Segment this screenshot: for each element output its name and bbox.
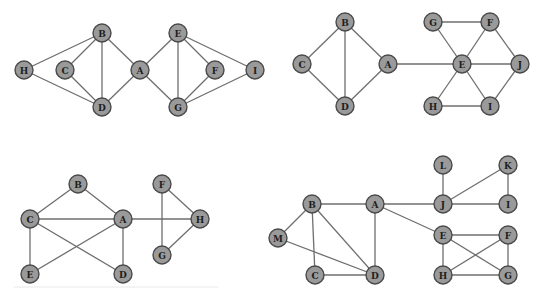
node-E: E — [169, 24, 187, 42]
node-D: D — [336, 97, 354, 115]
node-label: F — [159, 180, 166, 190]
edge-B-D — [312, 204, 375, 275]
graph-diagrams-canvas: HCBDAEGFIBCADGFEJHIBFCAHGEDLKBAJIMEFCDHG — [0, 0, 551, 306]
node-label: D — [119, 270, 127, 280]
node-label: M — [273, 234, 283, 244]
node-I: I — [481, 97, 499, 115]
node-label: D — [371, 271, 379, 281]
node-I: I — [499, 195, 517, 213]
node-label: D — [341, 102, 349, 112]
node-label: J — [517, 60, 522, 70]
node-E: E — [434, 226, 452, 244]
node-D: D — [114, 265, 132, 283]
node-G: G — [153, 246, 171, 264]
node-H: H — [424, 97, 442, 115]
node-label: E — [440, 231, 447, 241]
node-label: G — [429, 18, 437, 28]
node-K: K — [499, 156, 517, 174]
node-label: A — [119, 215, 128, 225]
node-D: D — [366, 266, 384, 284]
node-label: B — [308, 200, 316, 210]
node-label: C — [298, 60, 305, 70]
node-L: L — [434, 156, 452, 174]
node-B: B — [69, 175, 87, 193]
node-label: E — [459, 60, 466, 70]
edge-J-K — [443, 165, 508, 204]
graph-4: LKBAJIMEFCDHG — [269, 156, 517, 284]
node-label: H — [439, 271, 448, 281]
node-label: I — [506, 200, 510, 210]
graph-3: BFCAHGED — [21, 175, 209, 283]
node-H: H — [191, 210, 209, 228]
node-label: H — [196, 215, 205, 225]
node-label: E — [175, 29, 182, 39]
graph-2: BCADGFEJHI — [293, 13, 529, 115]
node-J: J — [511, 55, 529, 73]
node-G: G — [424, 13, 442, 31]
node-B: B — [93, 24, 111, 42]
node-label: A — [136, 66, 145, 76]
edge-B-C — [312, 204, 315, 275]
node-C: C — [306, 266, 324, 284]
node-H: H — [434, 266, 452, 284]
node-label: C — [61, 66, 68, 76]
node-label: F — [212, 66, 219, 76]
node-label: B — [98, 29, 106, 39]
node-H: H — [15, 61, 33, 79]
node-A: A — [131, 61, 149, 79]
node-label: G — [504, 271, 512, 281]
node-F: F — [499, 226, 517, 244]
node-J: J — [434, 195, 452, 213]
node-label: A — [384, 60, 393, 70]
node-label: B — [341, 18, 349, 28]
node-C: C — [56, 61, 74, 79]
edge-A-E — [375, 204, 443, 235]
node-label: B — [74, 180, 82, 190]
node-E: E — [453, 55, 471, 73]
node-label: E — [27, 270, 34, 280]
node-G: G — [499, 266, 517, 284]
node-C: C — [293, 55, 311, 73]
node-label: F — [487, 18, 494, 28]
node-label: D — [98, 103, 106, 113]
node-label: C — [311, 271, 318, 281]
node-A: A — [379, 55, 397, 73]
node-label: F — [505, 231, 512, 241]
node-label: K — [504, 161, 513, 171]
node-A: A — [114, 210, 132, 228]
node-label: I — [488, 102, 492, 112]
node-C: C — [21, 210, 39, 228]
graph-1: HCBDAEGFI — [15, 24, 264, 116]
node-F: F — [153, 175, 171, 193]
node-label: H — [429, 102, 438, 112]
node-label: L — [440, 161, 447, 171]
node-D: D — [93, 98, 111, 116]
node-B: B — [303, 195, 321, 213]
node-label: J — [440, 200, 445, 210]
edge-M-D — [278, 238, 375, 275]
node-F: F — [206, 61, 224, 79]
node-F: F — [481, 13, 499, 31]
node-label: H — [20, 66, 29, 76]
node-label: I — [253, 66, 257, 76]
node-label: G — [158, 251, 166, 261]
node-B: B — [336, 13, 354, 31]
node-A: A — [366, 195, 384, 213]
node-E: E — [21, 265, 39, 283]
node-label: G — [174, 103, 182, 113]
node-label: A — [371, 200, 380, 210]
node-M: M — [269, 229, 287, 247]
node-G: G — [169, 98, 187, 116]
node-label: C — [26, 215, 33, 225]
node-I: I — [246, 61, 264, 79]
